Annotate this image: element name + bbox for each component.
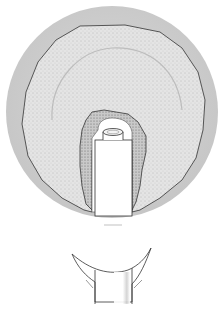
abutment [95,129,132,217]
cross-section-view [72,248,151,304]
illustration [0,0,224,314]
